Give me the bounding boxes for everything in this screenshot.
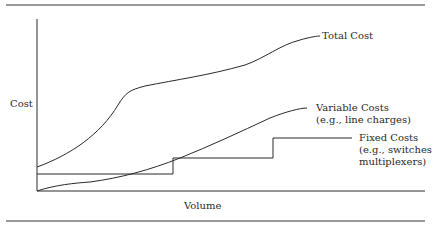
x-axis-label: Volume — [184, 200, 221, 212]
fixed-cost-label-2: (e.g., switches — [359, 144, 432, 156]
fixed-cost-label-1: Fixed Costs — [359, 132, 418, 144]
fixed-cost-label-3: multiplexers) — [359, 156, 426, 168]
variable-cost-curve — [37, 108, 307, 191]
total-cost-curve — [37, 36, 320, 167]
y-axis-label: Cost — [10, 98, 33, 110]
fixed-cost-step — [37, 138, 352, 174]
variable-cost-label-2: (e.g., line charges) — [316, 114, 411, 126]
variable-cost-label-1: Variable Costs — [316, 102, 389, 114]
total-cost-label: Total Cost — [322, 30, 373, 42]
